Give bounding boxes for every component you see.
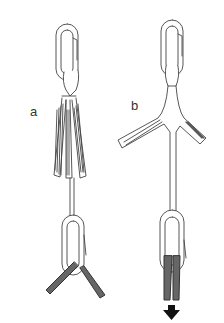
- sling-strands-a: [54, 98, 86, 178]
- rope-a: [46, 262, 105, 298]
- rope-b: [164, 256, 180, 300]
- panel-a-setup: [46, 24, 105, 298]
- climbing-anchor-illustration: [0, 0, 224, 323]
- arrow-down-icon: [163, 305, 180, 320]
- panel-b-setup: [118, 20, 206, 320]
